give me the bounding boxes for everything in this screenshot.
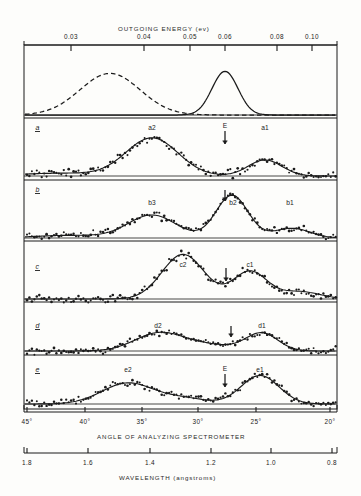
panel-d-data-points xyxy=(26,329,337,355)
panel-c-fit-curve xyxy=(25,254,336,299)
panel-b-data-points xyxy=(26,193,337,241)
top-panel-dashed-curve xyxy=(25,73,335,115)
panel-c-data-points xyxy=(26,250,337,304)
figure-canvas: OUTGOING ENERGY (ev) 0.030.040.050.060.0… xyxy=(0,0,361,496)
plot-graphics xyxy=(0,0,361,496)
panel-a-fit-curve xyxy=(25,138,336,176)
top-panel-solid-curve xyxy=(25,71,335,115)
